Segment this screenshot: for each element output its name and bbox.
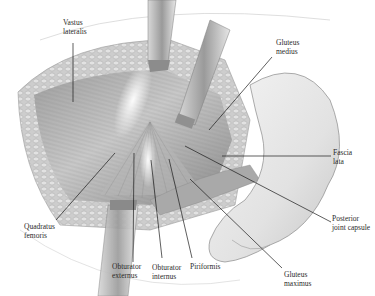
label-line: lateralis: [63, 27, 87, 36]
illustration-artwork: [0, 0, 375, 296]
label-line: lata: [333, 157, 352, 166]
label-line: Fascia: [333, 148, 352, 157]
label-obturator-externus: Obturator externus: [112, 262, 141, 280]
label-gluteus-maximus: Gluteus maximus: [284, 270, 312, 288]
label-piriformis: Piriformis: [190, 262, 220, 271]
label-line: Gluteus: [284, 270, 312, 279]
label-line: medius: [276, 47, 299, 56]
label-line: femoris: [24, 231, 55, 240]
label-line: externus: [112, 271, 141, 280]
label-line: joint capsule: [332, 223, 370, 232]
label-line: Vastus: [63, 18, 87, 27]
label-line: Gluteus: [276, 38, 299, 47]
label-line: maximus: [284, 279, 312, 288]
label-line: Obturator: [112, 262, 141, 271]
label-gluteus-medius: Gluteus medius: [276, 38, 299, 56]
label-quadratus-femoris: Quadratus femoris: [24, 222, 55, 240]
label-vastus-lateralis: Vastus lateralis: [63, 18, 87, 36]
label-line: Obturator: [152, 263, 181, 272]
anatomy-illustration: Vastus lateralis Gluteus medius Fascia l…: [0, 0, 375, 296]
label-line: Posterior: [332, 214, 370, 223]
label-line: internus: [152, 272, 181, 281]
label-obturator-internus: Obturator internus: [152, 263, 181, 281]
label-fascia-lata: Fascia lata: [333, 148, 352, 166]
label-posterior-joint-capsule: Posterior joint capsule: [332, 214, 370, 232]
label-line: Quadratus: [24, 222, 55, 231]
label-line: Piriformis: [190, 262, 220, 271]
